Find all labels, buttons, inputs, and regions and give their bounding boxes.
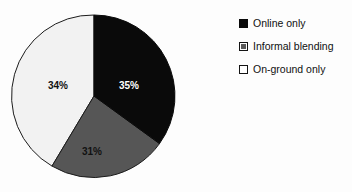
chart-legend: Online only Informal blending On-ground … <box>239 12 351 81</box>
pie-chart-svg: 35% 31% 34% <box>11 13 177 181</box>
pie-label-informal-blending: 31% <box>82 146 102 157</box>
legend-label-informal-blending: Informal blending <box>253 41 334 52</box>
pie-label-on-ground-only: 34% <box>48 80 68 91</box>
legend-item-informal-blending[interactable]: Informal blending <box>239 35 351 58</box>
legend-label-on-ground-only: On-ground only <box>253 64 325 75</box>
legend-label-online-only: Online only <box>253 18 306 29</box>
legend-swatch-online-only-icon <box>239 19 248 28</box>
pie-label-online-only: 35% <box>119 80 139 91</box>
legend-swatch-informal-blending-icon <box>239 42 248 51</box>
legend-item-online-only[interactable]: Online only <box>239 12 351 35</box>
legend-item-on-ground-only[interactable]: On-ground only <box>239 58 351 81</box>
pie-chart-plot-area: 35% 31% 34% <box>11 13 177 181</box>
pie-chart-figure: 35% 31% 34% Online only Informal blendin… <box>0 0 352 192</box>
legend-swatch-on-ground-only-icon <box>239 65 248 74</box>
